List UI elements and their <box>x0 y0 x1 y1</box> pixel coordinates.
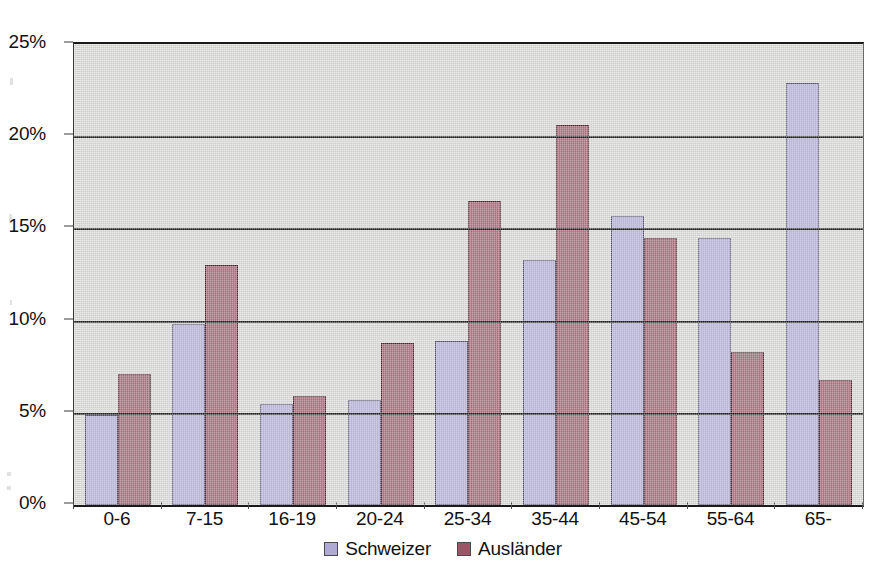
y-axis-tick-mark <box>64 503 73 504</box>
x-axis-tick-label: 25-34 <box>444 508 492 530</box>
bar <box>644 238 677 505</box>
legend-swatch-icon <box>457 542 471 556</box>
y-axis-tick-label: 20% <box>9 123 46 145</box>
legend-swatch-icon <box>324 542 338 556</box>
legend-item: Ausländer <box>457 538 562 560</box>
bar-chart: 0%5%10%15%20%25% 0-67-1516-1920-2425-343… <box>0 0 886 580</box>
y-axis-tick-label: 0% <box>19 492 46 514</box>
x-axis-tick-label: 7-15 <box>186 508 223 530</box>
x-axis-tick-label: 55-64 <box>707 508 755 530</box>
bar-group <box>425 44 513 505</box>
bar <box>786 83 819 505</box>
bar <box>468 201 501 505</box>
x-axis-tick-label: 45-54 <box>619 508 667 530</box>
gridline <box>74 321 863 323</box>
bar <box>260 404 293 505</box>
y-axis-tick-label: 10% <box>9 308 46 330</box>
y-axis-tick-mark <box>64 42 73 43</box>
bar-group <box>162 44 250 505</box>
gridline <box>74 228 863 230</box>
bar <box>698 238 731 505</box>
bar <box>731 352 764 505</box>
legend-label: Ausländer <box>478 538 562 560</box>
bar-group <box>74 44 162 505</box>
bar <box>381 343 414 505</box>
x-axis-tick-label: 35-44 <box>531 508 579 530</box>
bar <box>348 400 381 505</box>
bar-group <box>775 44 863 505</box>
x-axis-tick-label: 65- <box>805 508 832 530</box>
legend-label: Schweizer <box>345 538 431 560</box>
bar-group <box>688 44 776 505</box>
bar <box>523 260 556 505</box>
y-axis-tick-mark <box>64 318 73 319</box>
y-axis-tick-label: 5% <box>19 400 46 422</box>
bar <box>611 216 644 506</box>
bar <box>118 374 151 505</box>
x-axis-tick-label: 0-6 <box>103 508 130 530</box>
bar <box>819 380 852 505</box>
x-axis-tick-label: 16-19 <box>268 508 316 530</box>
bar-group <box>337 44 425 505</box>
bar <box>435 341 468 505</box>
y-axis-tick-mark <box>64 134 73 135</box>
y-axis-tick-label: 25% <box>9 31 46 53</box>
gridline <box>74 413 863 415</box>
y-axis-tick-mark <box>64 226 73 227</box>
bar-group <box>512 44 600 505</box>
plot-area <box>73 42 864 507</box>
x-axis: 0-67-1516-1920-2425-3435-4445-5455-6465- <box>73 508 862 538</box>
y-axis: 0%5%10%15%20%25% <box>0 0 62 580</box>
chart-legend: SchweizerAusländer <box>0 538 886 560</box>
bars-layer <box>74 44 863 505</box>
y-axis-tick-mark <box>64 410 73 411</box>
bar <box>205 265 238 505</box>
legend-item: Schweizer <box>324 538 431 560</box>
y-axis-tick-label: 15% <box>9 215 46 237</box>
bar <box>85 415 118 505</box>
bar-group <box>249 44 337 505</box>
x-axis-tick-label: 20-24 <box>356 508 404 530</box>
gridline <box>74 136 863 138</box>
bar <box>556 125 589 505</box>
bar-group <box>600 44 688 505</box>
